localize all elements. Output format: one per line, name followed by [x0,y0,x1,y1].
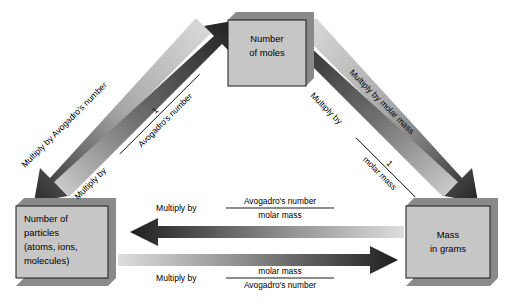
label-bottom-lower-numerator: molar mass [258,266,301,276]
label-bottom-upper-group: Multiply by Avogadro's number molar mass [156,196,334,220]
box-mass-line2: in grams [430,243,466,254]
label-bottom-lower-group: Multiply by molar mass Avogadro's number [156,266,334,290]
label-bottom-upper-numerator: Avogadro's number [244,196,316,206]
box-mass-in-grams: Mass in grams [406,198,498,286]
left-light-band [62,33,221,193]
box-moles-line2: of moles [249,47,285,58]
label-bottom-lower-denominator: Avogadro's number [244,280,316,290]
box-particles-line2: particles [24,227,59,238]
box-number-of-moles: Number of moles [228,12,314,86]
mole-conversion-diagram: Number of moles Number of particles (ato… [0,0,512,304]
arrow-mass-to-particles [130,216,404,248]
label-bottom-upper-prefix: Multiply by [156,203,197,213]
label-right-inner-numerator: 1 [385,158,396,169]
box-particles-line1: Number of [24,213,68,224]
box-mass-line1: Mass [437,229,460,240]
diagram-canvas: Number of moles Number of particles (ato… [0,0,512,304]
box-number-of-particles: Number of particles (atoms, ions, molecu… [16,198,116,286]
box-moles-line1: Number [250,33,283,44]
box-particles-line3: (atoms, ions, [24,241,78,252]
box-particles-line4: molecules) [24,255,69,266]
label-bottom-upper-denominator: molar mass [258,210,301,220]
label-bottom-lower-prefix: Multiply by [156,273,197,283]
label-right-inner-prefix: Multiply by [309,90,345,126]
